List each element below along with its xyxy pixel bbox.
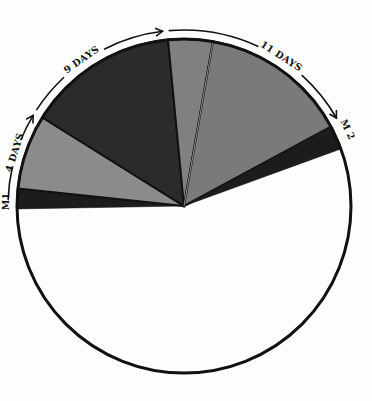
svg-text:M 2: M 2 xyxy=(339,118,358,142)
svg-text:M1: M1 xyxy=(0,192,11,210)
pie-chart: M14 DAYS9 DAYS11 DAYSM 2 xyxy=(0,0,372,401)
cycle-diagram: M14 DAYS9 DAYS11 DAYSM 2 M1 4 DAYS 9 DAY… xyxy=(0,0,372,401)
